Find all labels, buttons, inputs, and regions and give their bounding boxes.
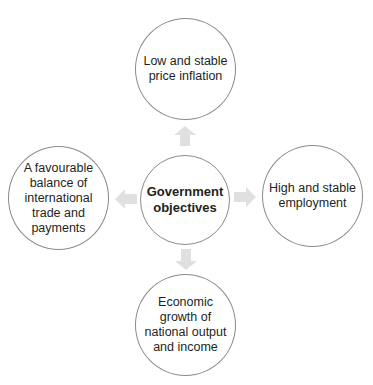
arrow-down-icon (175, 249, 197, 270)
node-label: High and stable employment (269, 181, 356, 211)
node-employment: High and stable employment (262, 145, 363, 247)
node-label: Economic growth of national output and i… (144, 295, 226, 355)
arrow-left-icon (115, 189, 137, 209)
node-price-inflation: Low and stable price inflation (135, 18, 236, 120)
arrow-up-icon (174, 126, 196, 146)
node-economic-growth: Economic growth of national output and i… (135, 274, 236, 376)
arrow-right-icon (234, 187, 256, 207)
node-government-objectives: Government objectives (140, 155, 230, 245)
center-label: Government objectives (147, 184, 224, 216)
node-label: A favourable balance of international tr… (24, 161, 94, 236)
node-label: Low and stable price inflation (143, 54, 227, 84)
node-balance-of-payments: A favourable balance of international tr… (8, 146, 109, 250)
